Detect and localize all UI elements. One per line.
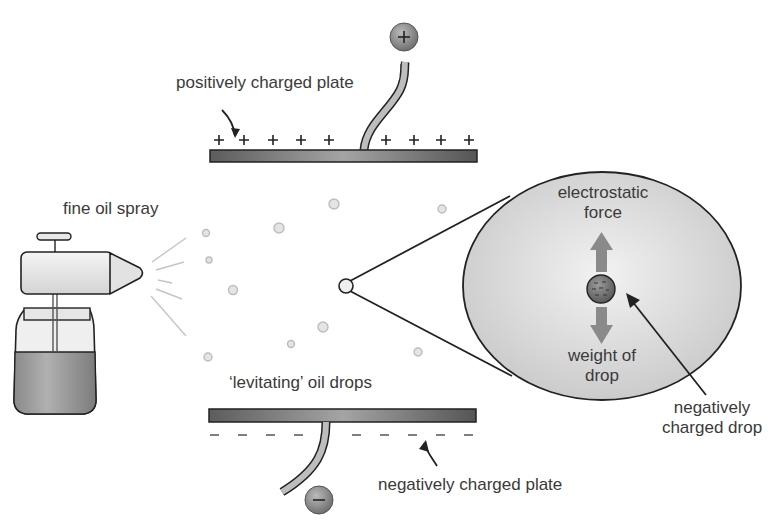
electrostatic-force-line2: force [548, 203, 658, 223]
oil-drop-diagram [0, 0, 778, 532]
spray-bottle [14, 233, 143, 414]
positive-plate [210, 150, 477, 162]
positive-plate-label: positively charged plate [176, 73, 354, 93]
positive-wire [364, 60, 405, 150]
fine-oil-spray-label: fine oil spray [63, 199, 158, 219]
negative-plate [209, 409, 476, 422]
weight-line1: weight of [550, 346, 654, 366]
plus-charges [214, 135, 474, 145]
weight-line2: drop [550, 366, 654, 386]
electrostatic-force-line1: electrostatic [548, 183, 658, 203]
weight-of-drop-label: weight of drop [550, 346, 654, 386]
charged-drop-label: negatively charged drop [648, 398, 776, 438]
selected-oil-drop [339, 279, 353, 293]
levitating-drops-label: ‘levitating’ oil drops [229, 373, 372, 393]
spray-lines [151, 238, 186, 336]
positive-plate-arrowhead [231, 128, 240, 138]
negative-terminal-ball [305, 486, 333, 514]
electrostatic-force-label: electrostatic force [548, 183, 658, 223]
negatively-charged-drop [587, 275, 615, 303]
negative-plate-label: negatively charged plate [378, 475, 562, 495]
charged-drop-line2: charged drop [648, 418, 776, 438]
negative-wire [282, 422, 326, 492]
positive-terminal-ball [390, 23, 418, 51]
charged-drop-line1: negatively [648, 398, 776, 418]
negative-plate-arrowhead [419, 440, 429, 452]
oil-droplets [203, 199, 447, 361]
